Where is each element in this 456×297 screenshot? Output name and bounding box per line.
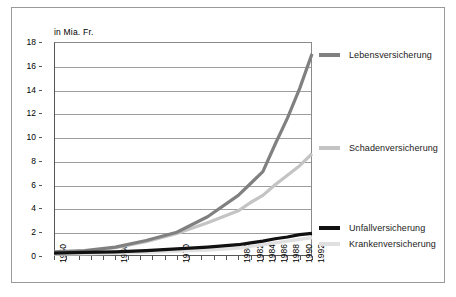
legend-swatch-icon xyxy=(319,242,340,246)
legend-label: Unfallversicherung xyxy=(349,223,425,233)
x-tick-mark xyxy=(91,256,92,260)
x-tick-mark xyxy=(140,256,141,260)
legend-entry: Krankenversicherung xyxy=(319,239,436,249)
y-tick-mark xyxy=(39,66,42,67)
x-tick-mark xyxy=(214,256,215,260)
figure-frame: in Mia. Fr. 024681012141618 195019601970… xyxy=(11,7,445,283)
y-tick-mark xyxy=(39,256,42,257)
y-tick-label: 10 xyxy=(27,132,36,142)
chart-screenshot: in Mia. Fr. 024681012141618 195019601970… xyxy=(0,0,456,297)
y-tick-mark xyxy=(39,137,42,138)
x-tick-mark xyxy=(103,256,104,260)
legend-swatch-icon xyxy=(319,226,340,230)
y-tick-label: 8 xyxy=(31,156,36,166)
y-tick-label: 14 xyxy=(27,85,36,95)
legend-entry: Unfallversicherung xyxy=(319,223,425,233)
y-tick-label: 16 xyxy=(27,61,36,71)
y-tick-label: 4 xyxy=(31,203,36,213)
y-tick-mark xyxy=(39,161,42,162)
y-tick-mark xyxy=(39,113,42,114)
legend-entry: Lebensversicherung xyxy=(319,50,432,60)
y-tick-label: 2 xyxy=(31,227,36,237)
legend-label: Schadenversicherung xyxy=(349,143,438,153)
legend-label: Lebensversicherung xyxy=(349,50,432,60)
y-tick-label: 18 xyxy=(27,37,36,47)
legend-label: Krankenversicherung xyxy=(349,239,436,249)
y-tick-label: 12 xyxy=(27,108,36,118)
x-tick-mark xyxy=(115,256,116,260)
y-tick-label: 0 xyxy=(31,251,36,261)
y-axis-unit-caption: in Mia. Fr. xyxy=(54,27,94,37)
series-line xyxy=(54,54,312,252)
legend-entry: Schadenversicherung xyxy=(319,143,438,153)
legend-swatch-icon xyxy=(319,53,340,57)
x-tick-mark xyxy=(165,256,166,260)
y-tick-mark xyxy=(39,185,42,186)
y-tick-mark xyxy=(39,232,42,233)
y-tick-mark xyxy=(39,208,42,209)
x-tick-mark xyxy=(201,256,202,260)
x-tick-mark xyxy=(238,256,239,260)
x-tick-mark xyxy=(177,256,178,260)
x-tick-mark xyxy=(152,256,153,260)
series-lines xyxy=(54,42,312,256)
x-tick-mark xyxy=(54,256,55,260)
y-tick-mark xyxy=(39,42,42,43)
x-tick-mark xyxy=(79,256,80,260)
y-tick-label: 6 xyxy=(31,180,36,190)
legend-swatch-icon xyxy=(319,146,340,150)
y-tick-mark xyxy=(39,90,42,91)
x-tick-mark xyxy=(226,256,227,260)
